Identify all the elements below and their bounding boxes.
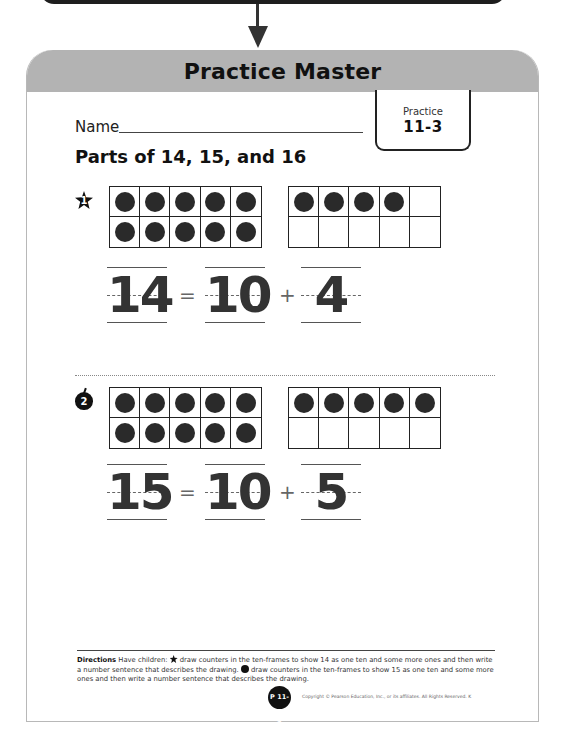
ones-digits: 5 — [301, 463, 361, 521]
answer-box-total[interactable]: 15 — [107, 464, 167, 520]
copyright-text: Copyright © Pearson Education, Inc., or … — [302, 694, 471, 699]
counter-icon — [115, 393, 135, 413]
counter-icon — [236, 393, 256, 413]
ten-frame-cell[interactable] — [201, 388, 231, 418]
counter-icon — [236, 192, 256, 212]
ten-frame-cell[interactable] — [289, 187, 319, 217]
ten-frame-cell[interactable] — [170, 388, 200, 418]
ten-frame-cell[interactable] — [170, 217, 200, 247]
ten-frame-cell[interactable] — [289, 217, 319, 247]
ten-frame-cell[interactable] — [380, 418, 410, 448]
ones-digits: 4 — [301, 266, 361, 324]
ten-frame-cell[interactable] — [140, 217, 170, 247]
ten-frame-cell[interactable] — [410, 388, 440, 418]
counter-icon — [415, 393, 435, 413]
ten-frame-ones[interactable] — [288, 186, 441, 248]
ten-frame-cell[interactable] — [349, 418, 379, 448]
answer-box-total[interactable]: 14 — [107, 267, 167, 323]
ten-frame-cell[interactable] — [289, 418, 319, 448]
page-header: Practice Master — [27, 50, 538, 92]
star-icon: 1 — [75, 191, 93, 209]
ten-frame-cell[interactable] — [231, 187, 261, 217]
ten-frame-cell[interactable] — [410, 217, 440, 247]
section-divider — [75, 375, 495, 376]
counter-icon — [205, 192, 225, 212]
ten-frame-cell[interactable] — [319, 217, 349, 247]
ten-frame-cell[interactable] — [110, 187, 140, 217]
counter-icon — [324, 393, 344, 413]
tens-digits: 10 — [205, 463, 265, 521]
ten-frame-cell[interactable] — [349, 388, 379, 418]
ten-frame-cell[interactable] — [380, 388, 410, 418]
counter-icon — [294, 192, 314, 212]
apple-icon — [241, 665, 249, 673]
ten-frame-cell[interactable] — [231, 418, 261, 448]
counter-icon — [175, 222, 195, 242]
ten-frame-cell[interactable] — [140, 418, 170, 448]
ten-frame-cell[interactable] — [170, 418, 200, 448]
problem-number: 1 — [81, 195, 88, 206]
tens-digits: 10 — [205, 266, 265, 324]
page-number-badge: P 11-3 — [268, 686, 291, 709]
answer-box-tens[interactable]: 10 — [205, 267, 265, 323]
ten-frame-cell[interactable] — [110, 217, 140, 247]
plus-sign: + — [279, 480, 296, 504]
equals-sign: = — [179, 480, 196, 504]
counter-icon — [175, 423, 195, 443]
header-title: Practice Master — [184, 59, 382, 84]
counter-icon — [205, 393, 225, 413]
counter-icon — [115, 222, 135, 242]
total-digits: 15 — [107, 463, 167, 521]
ten-frame-cell[interactable] — [289, 388, 319, 418]
ten-frame-cell[interactable] — [319, 418, 349, 448]
answer-box-tens[interactable]: 10 — [205, 464, 265, 520]
answer-box-ones[interactable]: 4 — [301, 267, 361, 323]
ten-frame-cell[interactable] — [201, 187, 231, 217]
ten-frame-cell[interactable] — [410, 418, 440, 448]
ten-frame-cell[interactable] — [110, 388, 140, 418]
ten-frame-cell[interactable] — [201, 418, 231, 448]
ten-frame-cell[interactable] — [231, 217, 261, 247]
name-field[interactable] — [119, 132, 363, 133]
counter-icon — [115, 423, 135, 443]
ten-frame-cell[interactable] — [201, 217, 231, 247]
counter-icon — [205, 423, 225, 443]
ten-frame-cell[interactable] — [380, 217, 410, 247]
ten-frame-ones[interactable] — [288, 387, 441, 449]
apple-icon: 2 — [75, 392, 93, 410]
counter-icon — [175, 192, 195, 212]
ten-frame-cell[interactable] — [380, 187, 410, 217]
ten-frame-tens[interactable] — [109, 186, 262, 248]
ten-frame-cell[interactable] — [319, 187, 349, 217]
counter-icon — [175, 393, 195, 413]
practice-label: Practice — [377, 106, 469, 117]
answer-box-ones[interactable]: 5 — [301, 464, 361, 520]
ten-frame-cell[interactable] — [319, 388, 349, 418]
ten-frame-cell[interactable] — [231, 388, 261, 418]
counter-icon — [115, 192, 135, 212]
counter-icon — [236, 423, 256, 443]
previous-panel-bar — [40, 0, 506, 4]
counter-icon — [236, 222, 256, 242]
ten-frame-cell[interactable] — [110, 418, 140, 448]
ten-frame-cell[interactable] — [170, 187, 200, 217]
ten-frame-cell[interactable] — [140, 388, 170, 418]
practice-master-page: Practice Master Name Practice 11-3 Parts… — [26, 50, 539, 722]
directions-text: Directions Have children: draw counters … — [77, 650, 495, 684]
ten-frame-cell[interactable] — [349, 187, 379, 217]
problem-number: 2 — [81, 396, 88, 407]
ten-frame-tens[interactable] — [109, 387, 262, 449]
counter-icon — [384, 192, 404, 212]
plus-sign: + — [279, 283, 296, 307]
counter-icon — [145, 192, 165, 212]
down-arrow-icon — [248, 26, 268, 48]
counter-icon — [384, 393, 404, 413]
counter-icon — [145, 423, 165, 443]
counter-icon — [294, 393, 314, 413]
name-label: Name — [75, 118, 119, 136]
practice-tab: Practice 11-3 — [375, 90, 471, 151]
ten-frame-cell[interactable] — [349, 217, 379, 247]
counter-icon — [145, 222, 165, 242]
ten-frame-cell[interactable] — [410, 187, 440, 217]
ten-frame-cell[interactable] — [140, 187, 170, 217]
